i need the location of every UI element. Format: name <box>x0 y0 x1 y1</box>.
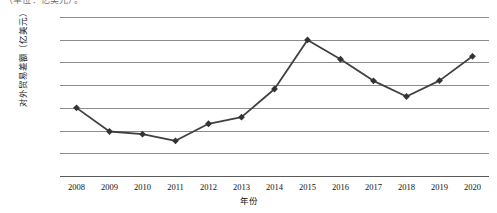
plot-area: 01000200030004000500060007000 <box>60 17 489 176</box>
data-point-marker <box>172 137 179 144</box>
top-caption: （单位：亿美元）。 <box>4 0 83 5</box>
data-point-marker <box>205 120 212 127</box>
data-point-marker <box>139 131 146 138</box>
y-axis-title: 对外贸易差额（亿美元） <box>18 0 28 127</box>
x-tick-label: 2020 <box>453 183 493 192</box>
chart-figure: （单位：亿美元）。 对外贸易差额（亿美元） 010002000300040005… <box>0 0 497 213</box>
x-axis-title: 年份 <box>0 196 497 206</box>
gridline-0 <box>60 176 489 177</box>
data-point-marker <box>403 93 410 100</box>
line-series <box>60 17 489 176</box>
